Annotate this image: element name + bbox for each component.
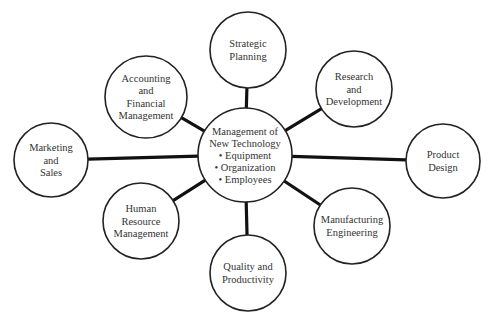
node-human-resource-management: HumanResourceManagement xyxy=(103,183,179,259)
node-product-design-label-line: Product xyxy=(427,149,460,160)
connector-human-resource-management xyxy=(173,180,205,200)
node-accounting-financial-management: AccountingandFinancialManagement xyxy=(105,56,187,138)
node-center-management-of-new-technology: Management ofNew Technology• Equipment• … xyxy=(198,108,292,202)
node-research-development-label-line: Research xyxy=(335,71,374,82)
connector-research-development xyxy=(285,109,321,131)
node-research-development-label-line: Development xyxy=(326,96,383,107)
node-center-management-of-new-technology-label-line: Management of xyxy=(212,126,279,137)
node-marketing-sales: MarketingandSales xyxy=(14,123,88,197)
node-human-resource-management-label-line: Resource xyxy=(121,216,160,227)
node-research-development: ResearchandDevelopment xyxy=(316,51,392,127)
management-of-technology-diagram: StrategicPlanningAccountingandFinancialM… xyxy=(0,0,502,316)
node-quality-productivity-label-line: Quality and xyxy=(223,261,273,272)
node-marketing-sales-label-line: Sales xyxy=(40,167,62,178)
connector-strategic-planning xyxy=(246,88,247,108)
node-manufacturing-engineering-label-line: Engineering xyxy=(326,227,378,238)
connector-quality-productivity xyxy=(246,202,247,235)
node-marketing-sales-label-line: and xyxy=(43,155,59,166)
node-center-management-of-new-technology-label-line: • Organization xyxy=(215,162,277,173)
node-accounting-financial-management-label-line: Management xyxy=(119,110,174,121)
node-quality-productivity-label-line: Productivity xyxy=(222,274,275,285)
node-research-development-label-line: and xyxy=(346,84,362,95)
node-marketing-sales-label-line: Marketing xyxy=(29,142,73,153)
node-strategic-planning-label-line: Planning xyxy=(229,51,267,62)
node-accounting-financial-management-label-line: Financial xyxy=(126,98,165,109)
connector-accounting-financial-management xyxy=(181,118,204,132)
node-manufacturing-engineering: ManufacturingEngineering xyxy=(314,188,390,264)
node-strategic-planning: StrategicPlanning xyxy=(210,12,286,88)
node-strategic-planning-label-line: Strategic xyxy=(229,38,267,49)
node-manufacturing-engineering-label-line: Manufacturing xyxy=(321,214,384,225)
node-product-design-label-line: Design xyxy=(428,162,458,173)
node-human-resource-management-label-line: Management xyxy=(114,228,169,239)
node-product-design: ProductDesign xyxy=(406,124,480,198)
node-quality-productivity: Quality andProductivity xyxy=(210,235,286,311)
connector-marketing-sales xyxy=(88,156,198,159)
node-accounting-financial-management-label-line: and xyxy=(138,85,154,96)
circles: StrategicPlanningAccountingandFinancialM… xyxy=(14,12,480,311)
connector-product-design xyxy=(292,156,406,159)
node-center-management-of-new-technology-label-line: • Equipment xyxy=(219,150,271,161)
node-center-management-of-new-technology-label-line: • Employees xyxy=(219,174,272,185)
node-accounting-financial-management-label-line: Accounting xyxy=(122,73,172,84)
node-center-management-of-new-technology-label-line: New Technology xyxy=(209,138,281,149)
node-human-resource-management-label-line: Human xyxy=(126,203,158,214)
connector-manufacturing-engineering xyxy=(284,181,320,205)
